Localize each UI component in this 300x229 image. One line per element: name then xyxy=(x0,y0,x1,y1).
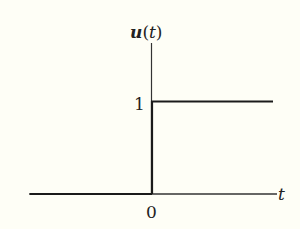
y-axis-label-u: u xyxy=(130,22,142,42)
y-tick-label-1: 1 xyxy=(134,94,145,114)
y-axis-label: u(t) xyxy=(130,22,163,42)
y-axis-label-open-paren: ( xyxy=(142,22,149,42)
step-function-chart: u(t) 1 0 t xyxy=(0,0,300,229)
x-tick-label-0: 0 xyxy=(146,202,157,222)
y-axis-label-close-paren: ) xyxy=(156,22,163,42)
x-axis-label: t xyxy=(278,184,285,204)
chart-canvas: u(t) 1 0 t xyxy=(0,0,300,229)
